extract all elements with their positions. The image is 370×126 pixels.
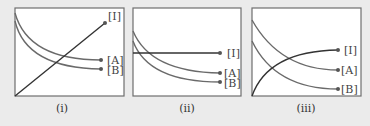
endpoint-B xyxy=(99,67,103,71)
label-B: [B] xyxy=(341,83,358,96)
caption: (iii) xyxy=(296,102,315,115)
label-B: [B] xyxy=(224,77,241,90)
panel-i: [I] [A] [B] (i) xyxy=(15,8,124,115)
caption: (ii) xyxy=(179,102,195,115)
label-I: [I] xyxy=(344,44,357,57)
endpoint-A xyxy=(99,58,103,62)
endpoint-A xyxy=(336,68,340,72)
caption: (i) xyxy=(56,102,68,115)
endpoint-I xyxy=(103,21,107,25)
endpoint-I xyxy=(218,51,222,55)
endpoint-B xyxy=(218,80,222,84)
label-A: [A] xyxy=(341,64,358,77)
concentration-diagrams: [I] [A] [B] (i) [I] [A] [B] (ii) [I] [A]… xyxy=(0,0,370,126)
panel-iii: [I] [A] [B] (iii) xyxy=(252,8,361,115)
panel-ii: [I] [A] [B] (ii) xyxy=(133,8,241,115)
label-I: [I] xyxy=(108,10,121,23)
endpoint-A xyxy=(218,71,222,75)
label-I: [I] xyxy=(227,47,240,60)
label-B: [B] xyxy=(107,64,124,77)
endpoint-B xyxy=(336,87,340,91)
endpoint-I xyxy=(336,48,340,52)
